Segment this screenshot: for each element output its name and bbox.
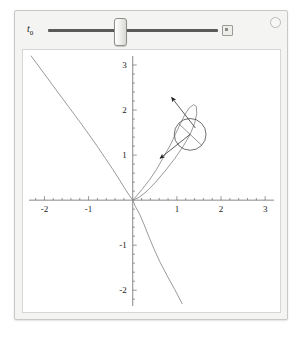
normal-vector-arrow	[160, 134, 190, 158]
control-bar: t0	[15, 11, 287, 49]
circle-plus-icon[interactable]	[270, 17, 281, 28]
y-tick-label: -1	[119, 240, 127, 250]
slider-label: t0	[27, 23, 33, 37]
y-tick-label: 3	[122, 60, 127, 70]
x-tick-label: -1	[85, 204, 93, 214]
x-tick-label: 3	[263, 204, 268, 214]
animate-play-icon[interactable]	[222, 25, 233, 36]
x-tick-label: 1	[175, 204, 180, 214]
folium-of-descartes	[31, 56, 197, 304]
slider-track[interactable]	[48, 29, 218, 32]
slider-label-subscript: 0	[30, 29, 34, 37]
radius-line	[179, 124, 202, 146]
manipulate-panel: t0 -2-1123-2-1123	[14, 10, 288, 320]
x-tick-label: -2	[41, 204, 49, 214]
tangent-vector-arrow	[172, 97, 196, 128]
x-tick-label: 2	[219, 204, 224, 214]
t0-slider[interactable]	[48, 23, 233, 39]
y-tick-label: 1	[122, 150, 127, 160]
slider-thumb[interactable]	[114, 18, 127, 46]
plot-svg: -2-1123-2-1123	[23, 50, 280, 312]
manipulate-window: t0 -2-1123-2-1123	[0, 0, 302, 338]
y-tick-label: 2	[122, 105, 127, 115]
graphics-plot-area: -2-1123-2-1123	[22, 49, 281, 313]
y-tick-label: -2	[119, 285, 127, 295]
